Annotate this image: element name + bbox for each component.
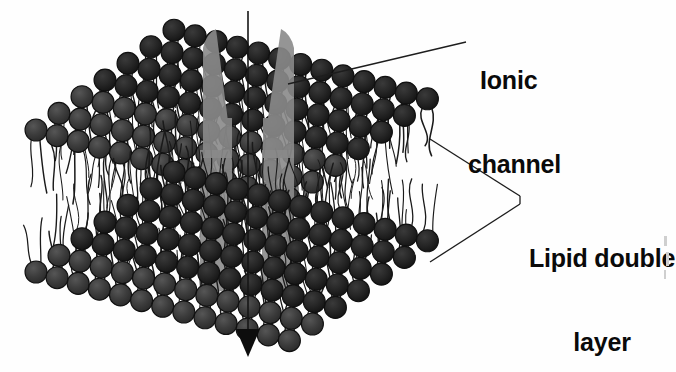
lipid-head-sphere	[163, 161, 185, 183]
lipid-head-sphere	[134, 245, 156, 267]
lipid-tail-chain	[396, 125, 400, 163]
lipid-head-sphere	[163, 19, 185, 41]
lipid-head-sphere	[196, 284, 218, 306]
lipid-head-sphere	[138, 58, 160, 80]
lipid-head-sphere	[177, 114, 199, 136]
lipid-head-sphere	[111, 120, 133, 142]
lipid-head-sphere	[370, 121, 392, 143]
lipid-head-sphere	[257, 324, 279, 346]
lipid-head-sphere	[246, 64, 268, 86]
lipid-head-sphere	[159, 64, 181, 86]
diagram-canvas: Ionic channel Lipid double layer	[0, 0, 676, 372]
lipid-head-sphere	[133, 267, 155, 289]
lipid-head-sphere	[175, 279, 197, 301]
lipid-head-sphere	[240, 274, 262, 296]
lipid-head-sphere	[180, 212, 202, 234]
lipid-head-sphere	[347, 280, 369, 302]
lipid-head-sphere	[136, 81, 158, 103]
lipid-head-sphere	[110, 142, 132, 164]
lipid-head-sphere	[307, 104, 329, 126]
lipid-head-sphere	[94, 211, 116, 233]
lipid-head-sphere	[217, 290, 239, 312]
lipid-head-sphere	[69, 108, 91, 130]
lipid-head-sphere	[288, 218, 310, 240]
lipid-head-sphere	[202, 217, 224, 239]
lipid-head-sphere	[180, 70, 202, 92]
lipid-head-sphere	[248, 42, 270, 64]
lipid-tail-chain	[351, 159, 356, 199]
lipid-head-sphere	[69, 250, 91, 272]
lipid-head-sphere	[244, 229, 266, 251]
lipid-head-sphere	[374, 218, 396, 240]
lipid-head-sphere	[203, 195, 225, 217]
lipid-head-sphere	[395, 224, 417, 246]
lipid-head-sphere	[131, 290, 153, 312]
lipid-tail-chain	[54, 194, 57, 245]
lipid-head-sphere	[282, 285, 304, 307]
lipid-head-sphere	[117, 52, 139, 74]
lipid-head-sphere	[198, 262, 220, 284]
lipid-head-sphere	[115, 217, 137, 239]
lipid-head-sphere	[370, 263, 392, 285]
lipid-head-sphere	[324, 296, 346, 318]
lipid-head-sphere	[223, 81, 245, 103]
lipid-head-sphere	[219, 268, 241, 290]
lipid-tail-chain	[409, 179, 413, 225]
lipid-head-sphere	[328, 252, 350, 274]
lipid-head-sphere	[88, 278, 110, 300]
lipid-head-sphere	[94, 69, 116, 91]
lipid-head-sphere	[110, 284, 132, 306]
label-lipid-double-layer-line1: Lipid double	[528, 244, 676, 272]
lipid-head-sphere	[226, 178, 248, 200]
lipid-head-sphere	[161, 42, 183, 64]
lipid-head-sphere	[244, 87, 266, 109]
lipid-head-sphere	[303, 149, 325, 171]
lipid-head-sphere	[225, 59, 247, 81]
lipid-head-sphere	[215, 313, 237, 335]
lipid-head-sphere	[240, 132, 262, 154]
lipid-head-sphere	[242, 251, 264, 273]
lipid-head-sphere	[48, 244, 70, 266]
lipid-head-sphere	[92, 91, 114, 113]
lipid-head-sphere	[157, 228, 179, 250]
label-lipid-double-layer-line2: layer	[528, 328, 676, 356]
lipid-head-sphere	[136, 223, 158, 245]
lipid-head-sphere	[303, 291, 325, 313]
lipid-head-sphere	[330, 87, 352, 109]
lipid-head-sphere	[261, 279, 283, 301]
lipid-tail-chain	[433, 184, 438, 230]
lipid-head-sphere	[67, 272, 89, 294]
lipid-head-sphere	[280, 307, 302, 329]
lipid-head-sphere	[353, 213, 375, 235]
lipid-head-sphere	[140, 178, 162, 200]
lipid-head-sphere	[395, 82, 417, 104]
lipid-head-sphere	[332, 207, 354, 229]
lipid-head-sphere	[152, 295, 174, 317]
lipid-head-sphere	[330, 229, 352, 251]
lipid-head-sphere	[328, 110, 350, 132]
lipid-head-sphere	[269, 190, 291, 212]
lipid-head-sphere	[177, 256, 199, 278]
lipid-head-sphere	[326, 274, 348, 296]
label-lipid-double-layer: Lipid double layer	[528, 188, 676, 372]
lipid-tail-chain	[429, 109, 433, 156]
lipid-head-sphere	[309, 224, 331, 246]
lipid-head-sphere	[307, 246, 329, 268]
lipid-tail-chain	[345, 165, 348, 208]
lipid-head-sphere	[88, 136, 110, 158]
lipid-head-sphere	[351, 93, 373, 115]
lipid-head-sphere	[301, 313, 323, 335]
lipid-head-sphere	[259, 302, 281, 324]
lipid-head-sphere	[71, 228, 93, 250]
lipid-head-sphere	[265, 235, 287, 257]
lipid-head-sphere	[159, 206, 181, 228]
lipid-head-sphere	[161, 184, 183, 206]
lipid-head-sphere	[286, 240, 308, 262]
lipid-tail-chain	[385, 142, 392, 194]
lipid-head-sphere	[290, 196, 312, 218]
lipid-head-sphere	[48, 102, 70, 124]
lipid-head-sphere	[182, 189, 204, 211]
lipid-head-sphere	[157, 86, 179, 108]
lipid-head-sphere	[393, 246, 415, 268]
lipid-head-sphere	[263, 257, 285, 279]
